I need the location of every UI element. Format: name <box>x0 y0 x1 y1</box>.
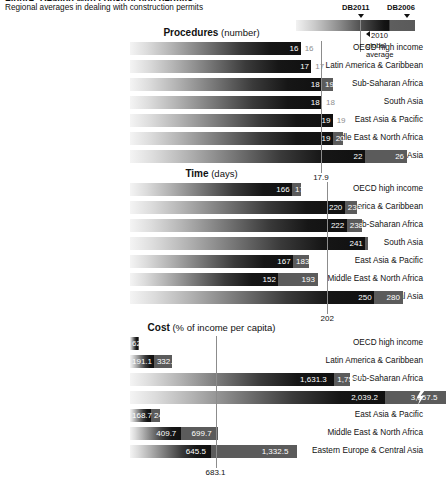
chart-row: Sub-Saharan Africa222238 <box>0 218 423 236</box>
cut-off-title: Figure: Dealing with construction permit… <box>5 0 193 1</box>
chart-row: South Asia1818 <box>0 95 423 113</box>
bar-value-db2011: 409.7 <box>156 427 176 440</box>
chart-row: Eastern Europe & Central Asia250280 <box>0 290 423 308</box>
bar-value-db2011: 152 <box>263 273 276 286</box>
bar-group: 168.7240.9 <box>130 409 160 422</box>
bar-value-db2006: 16 <box>305 42 314 55</box>
chart-row: Latin America & Caribbean1717 <box>0 59 423 77</box>
reference-line-2010-global-average <box>216 336 217 463</box>
bar-value-db2006: 193 <box>302 273 315 286</box>
bar-value-db2006: 1,332.5 <box>262 445 289 458</box>
bar-group: 166175 <box>130 183 301 196</box>
bar-segment-db2011 <box>130 183 292 196</box>
reference-line-2010-global-average <box>327 182 328 309</box>
chart-row: Sub-Saharan Africa1,631.31,753.7 <box>0 372 423 390</box>
row-category-label: OECD high income <box>296 336 423 350</box>
bar-segment-db2011 <box>130 114 333 127</box>
bar-segment-db2011 <box>130 78 322 91</box>
bar-segment-db2011 <box>130 42 301 55</box>
bar-value-db2006: 20 <box>336 132 345 145</box>
chart-row: East Asia & Pacific168.7240.9 <box>0 408 423 426</box>
panel-title-unit: (days) <box>209 168 238 179</box>
bar-value-db2006: 18 <box>326 96 335 109</box>
chart-row: East Asia & Pacific167183 <box>0 254 423 272</box>
bar-segment-db2011 <box>130 201 345 214</box>
bar-value-db2006: 26 <box>395 150 404 163</box>
chart-row: Middle East & North Africa409.7699.7 <box>0 426 423 444</box>
bar-value-db2011: 19 <box>321 114 330 127</box>
chart-row: OECD high income62.174.1 <box>0 336 423 354</box>
bar-group: 409.7699.7 <box>130 427 218 440</box>
chart-row: Eastern Europe & Central Asia2226 <box>0 149 423 167</box>
bar-segment-db2011 <box>130 237 365 250</box>
bar-segment-db2011 <box>130 150 365 163</box>
bar-value-db2011: 16 <box>289 42 298 55</box>
row-category-label: East Asia & Pacific <box>296 254 423 268</box>
chart-row: Middle East & North Africa152193 <box>0 272 423 290</box>
bar-value-db2011: 2,039.2 <box>351 391 378 404</box>
bar-value-db2006: 19 <box>325 78 334 91</box>
panel-title-main: Time <box>185 168 208 179</box>
bar-value-db2011: 19 <box>321 132 330 145</box>
bar-segment-db2011 <box>130 60 311 73</box>
bar-value-db2011: 1,631.3 <box>300 373 327 386</box>
bar-value-db2011: 18 <box>311 96 320 109</box>
chart-row: Latin America & Caribbean191.1332.0 <box>0 354 423 372</box>
bar-value-db2006: 74.1 <box>141 337 157 350</box>
bar-segment-db2011 <box>130 391 385 404</box>
bar-value-db2011: 250 <box>358 291 371 304</box>
bar-segment-db2011 <box>130 255 293 268</box>
bar-group: 2226 <box>130 150 407 163</box>
legend-label-db2011: DB2011 <box>342 3 369 12</box>
panel-rows: OECD high income166175Latin America & Ca… <box>0 182 423 308</box>
bar-group: 220233 <box>130 201 357 214</box>
bar-group: 152193 <box>130 273 318 286</box>
row-category-label: OECD high income <box>296 41 423 55</box>
down-arrow-icon <box>358 14 364 18</box>
bar-group: 62.174.1 <box>130 337 139 350</box>
panel-rows: OECD high income62.174.1Latin America & … <box>0 336 423 462</box>
bar-value-db2006: 19 <box>337 114 346 127</box>
chart-row: OECD high income1616 <box>0 41 423 59</box>
chart-row: South Asia241244 <box>0 236 423 254</box>
panel-title-unit: (number) <box>218 27 259 38</box>
row-category-label: Middle East & North Africa <box>296 426 423 440</box>
row-category-label: Latin America & Caribbean <box>296 354 423 368</box>
bar-segment-db2011 <box>130 273 278 286</box>
bar-group: 1616 <box>130 42 301 55</box>
bar-value-db2006: 238 <box>350 219 363 232</box>
bar-value-db2006: 1,753.7 <box>337 373 364 386</box>
panel-title: Procedures (number) <box>0 27 423 38</box>
bar-segment-db2011 <box>130 96 322 109</box>
bar-group: 1819 <box>130 78 333 91</box>
bar-value-db2011: 166 <box>276 183 289 196</box>
down-arrow-icon <box>404 14 410 18</box>
bar-group: 167183 <box>130 255 309 268</box>
bar-value-db2006: 3,957.5 <box>411 391 438 404</box>
bar-group: 1920 <box>130 132 343 145</box>
chart-row: Middle East & North Africa1920 <box>0 131 423 149</box>
bar-value-db2011: 645.5 <box>186 445 206 458</box>
bar-value-db2006: 183 <box>296 255 309 268</box>
bar-value-db2011: 168.7 <box>132 409 152 422</box>
bar-value-db2006: 175 <box>295 183 308 196</box>
bar-group: 191.1332.0 <box>130 355 172 368</box>
bar-group: 1919 <box>130 114 333 127</box>
bar-group: 250280 <box>130 291 403 304</box>
bar-value-db2011: 222 <box>331 219 344 232</box>
bar-value-db2011: 241 <box>349 237 362 250</box>
reference-line-label: 683.1 <box>206 468 226 477</box>
bar-group: 1717 <box>130 60 311 73</box>
panel-title-main: Cost <box>148 322 170 333</box>
bar-group: 645.51,332.5 <box>130 445 297 458</box>
row-category-label: Eastern Europe & Central Asia <box>296 444 423 458</box>
bar-group: 2,039.23,957.5 <box>130 391 446 404</box>
bar-value-db2011: 220 <box>329 201 342 214</box>
bar-value-db2006: 240.9 <box>154 409 174 422</box>
reference-line-2010-global-average <box>321 41 322 168</box>
bar-value-db2011: 17 <box>300 60 309 73</box>
chart-row: OECD high income166175 <box>0 182 423 200</box>
bar-group: 1818 <box>130 96 322 109</box>
bar-value-db2011: 167 <box>277 255 290 268</box>
